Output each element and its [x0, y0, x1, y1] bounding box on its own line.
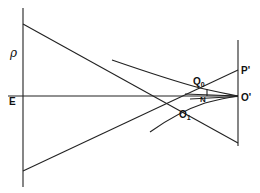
optics-diagram: ρ E Q0 N O1 P' O': [0, 0, 260, 193]
label-rho: ρ: [9, 46, 17, 60]
upper-curve: [112, 60, 238, 96]
label-O1: O1: [179, 109, 191, 121]
near-axis-ray-lower: [190, 97, 238, 100]
label-N: N: [200, 95, 206, 104]
label-Q0: Q0: [193, 76, 205, 88]
label-O-prime: O': [241, 92, 251, 103]
label-E: E: [9, 96, 16, 107]
ray-ascending: [23, 70, 238, 171]
label-P-prime: P': [241, 65, 250, 76]
ray-descending: [23, 24, 238, 143]
